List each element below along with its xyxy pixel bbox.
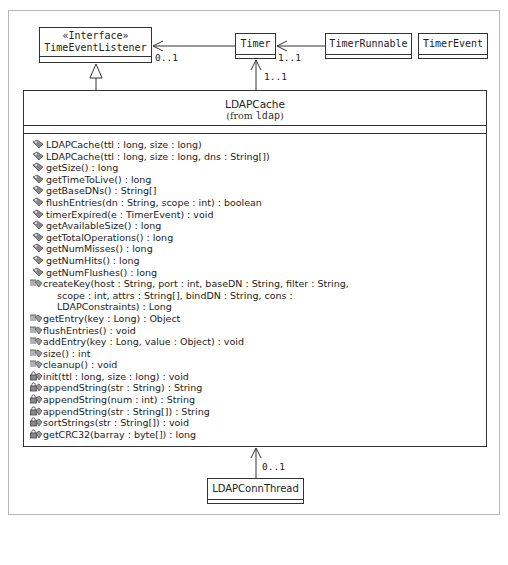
class-name: TimeEventListener (40, 42, 151, 54)
operation-row[interactable]: appendString(str : String[]) : String (29, 406, 482, 418)
operation-signature: getAvailableSize() : long (46, 220, 161, 232)
attribute-compartment (24, 125, 486, 134)
operation-signature: createKey(host : String, port : int, bas… (43, 278, 349, 290)
package-label: (from ldap) (24, 110, 486, 122)
operation-row[interactable]: getCRC32(barray : byte[]) : long (29, 429, 482, 441)
operation-row[interactable]: init(ttl : long, size : long) : void (29, 371, 482, 383)
operation-continuation: scope : int, attrs : String[], bindDN : … (29, 290, 482, 302)
operation-signature: flushEntries() : void (43, 325, 136, 337)
operation-signature: appendString(str : String) : String (43, 382, 202, 394)
operation-row[interactable]: size() : int (29, 348, 482, 360)
private-method-icon (29, 417, 43, 428)
operation-continuation: LDAPConstraints) : Long (29, 301, 482, 313)
package-name: ldap (256, 110, 280, 121)
operation-row[interactable]: timerExpired(e : TimerEvent) : void (29, 209, 482, 221)
attribute-compartment (40, 56, 151, 61)
public-method-icon (32, 139, 46, 150)
hollow-triangle-icon (90, 64, 102, 78)
class-time-event-listener[interactable]: «Interface» TimeEventListener (39, 27, 152, 63)
interface-stereotype: «Interface» (40, 28, 151, 42)
public-method-icon (32, 267, 46, 278)
public-method-icon (32, 232, 46, 243)
public-method-icon (32, 255, 46, 266)
operation-row[interactable]: getNumFlushes() : long (29, 267, 482, 279)
operation-signature: appendString(num : int) : String (43, 394, 195, 406)
package-method-icon (29, 336, 43, 347)
public-method-icon (32, 220, 46, 231)
operation-signature: LDAPCache(ttl : long, size : long) (46, 139, 202, 151)
public-method-icon (32, 197, 46, 208)
class-name: TimerRunnable (326, 34, 411, 51)
operation-row[interactable]: LDAPCache(ttl : long, size : long, dns :… (29, 151, 482, 163)
operation-signature: cleanup() : void (43, 359, 117, 371)
operation-row[interactable]: getBaseDNs() : String[] (29, 185, 482, 197)
private-method-icon (29, 429, 43, 440)
public-method-icon (32, 174, 46, 185)
package-method-icon (29, 359, 43, 370)
class-ldap-cache[interactable]: LDAPCache (from ldap) LDAPCache(ttl : lo… (23, 90, 487, 447)
operation-row[interactable]: getNumMisses() : long (29, 243, 482, 255)
private-method-icon (29, 394, 43, 405)
operation-row[interactable]: getAvailableSize() : long (29, 220, 482, 232)
operation-signature: appendString(str : String[]) : String (43, 406, 210, 418)
from-suffix: ) (280, 110, 284, 121)
package-method-icon (29, 348, 43, 359)
public-method-icon (32, 209, 46, 220)
operation-row[interactable]: getSize() : long (29, 162, 482, 174)
operation-row[interactable]: appendString(num : int) : String (29, 394, 482, 406)
operation-signature: getTotalOperations() : long (46, 232, 173, 244)
multiplicity-label: 1..1 (278, 52, 301, 63)
class-ldap-conn-thread[interactable]: LDAPConnThread (207, 478, 304, 504)
private-method-icon (29, 406, 43, 417)
operation-signature: getEntry(key : Long) : Object (43, 313, 180, 325)
from-prefix: (from (226, 110, 256, 121)
attribute-compartment (326, 54, 411, 59)
class-name: Timer (236, 34, 275, 51)
class-timer-event[interactable]: TimerEvent (418, 33, 488, 59)
operation-row[interactable]: cleanup() : void (29, 359, 482, 371)
operation-signature: scope : int, attrs : String[], bindDN : … (29, 290, 293, 302)
operation-signature: getSize() : long (46, 162, 118, 174)
operations-compartment: LDAPCache(ttl : long, size : long)LDAPCa… (29, 139, 482, 440)
operation-signature: timerExpired(e : TimerEvent) : void (46, 209, 213, 221)
class-timer[interactable]: Timer (235, 33, 276, 59)
operation-row[interactable]: addEntry(key : Long, value : Object) : v… (29, 336, 482, 348)
operation-row[interactable]: flushEntries() : void (29, 325, 482, 337)
class-timer-runnable[interactable]: TimerRunnable (325, 33, 412, 59)
operation-signature: init(ttl : long, size : long) : void (43, 371, 189, 383)
attribute-compartment (208, 499, 303, 504)
multiplicity-label: 0..1 (262, 461, 285, 472)
operation-row[interactable]: createKey(host : String, port : int, bas… (29, 278, 482, 290)
public-method-icon (32, 185, 46, 196)
operation-signature: getTimeToLive() : long (46, 174, 151, 186)
package-method-icon (29, 313, 43, 324)
operation-signature: getNumHits() : long (46, 255, 140, 267)
operation-signature: LDAPConstraints) : Long (29, 301, 172, 313)
operation-signature: getNumMisses() : long (46, 243, 153, 255)
operation-row[interactable]: flushEntries(dn : String, scope : int) :… (29, 197, 482, 209)
public-method-icon (32, 151, 46, 162)
operation-row[interactable]: sortStrings(str : String[]) : void (29, 417, 482, 429)
private-method-icon (29, 382, 43, 393)
public-method-icon (32, 162, 46, 173)
class-name: LDAPCache (24, 91, 486, 110)
operation-row[interactable]: getTotalOperations() : long (29, 232, 482, 244)
operation-row[interactable]: getTimeToLive() : long (29, 174, 482, 186)
package-method-icon (29, 325, 43, 336)
operation-signature: size() : int (43, 348, 90, 360)
operation-row[interactable]: appendString(str : String) : String (29, 382, 482, 394)
attribute-compartment (419, 54, 487, 59)
operation-row[interactable]: getEntry(key : Long) : Object (29, 313, 482, 325)
multiplicity-label: 1..1 (264, 71, 287, 82)
package-method-icon (29, 278, 43, 289)
operation-signature: addEntry(key : Long, value : Object) : v… (43, 336, 244, 348)
operation-signature: getNumFlushes() : long (46, 267, 157, 279)
operation-signature: LDAPCache(ttl : long, size : long, dns :… (46, 151, 270, 163)
operation-row[interactable]: LDAPCache(ttl : long, size : long) (29, 139, 482, 151)
operation-signature: sortStrings(str : String[]) : void (43, 417, 189, 429)
operation-signature: getCRC32(barray : byte[]) : long (43, 429, 196, 441)
class-name: LDAPConnThread (208, 479, 303, 496)
public-method-icon (32, 243, 46, 254)
operation-signature: getBaseDNs() : String[] (46, 185, 157, 197)
operation-row[interactable]: getNumHits() : long (29, 255, 482, 267)
